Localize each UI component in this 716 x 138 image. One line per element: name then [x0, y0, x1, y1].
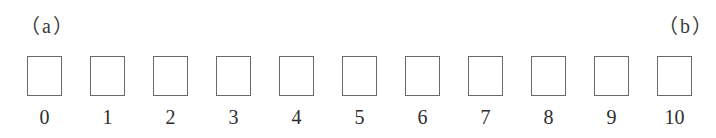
empty-cell [531, 56, 566, 96]
empty-cell [279, 56, 314, 96]
empty-cell [405, 56, 440, 96]
cell-index-label: 5 [335, 106, 385, 129]
cell-index-label: 3 [209, 106, 259, 129]
label-a: （a） [20, 10, 75, 39]
empty-cell [27, 56, 62, 96]
cell-index-label: 8 [524, 106, 574, 129]
empty-cell [216, 56, 251, 96]
empty-cell [342, 56, 377, 96]
empty-cell [657, 56, 692, 96]
empty-cell [90, 56, 125, 96]
cell-index-label: 6 [398, 106, 448, 129]
cell-index-label: 0 [20, 106, 70, 129]
cell-index-label: 2 [146, 106, 196, 129]
cell-index-label: 10 [650, 106, 700, 129]
empty-cell [468, 56, 503, 96]
cell-index-label: 4 [272, 106, 322, 129]
label-b: （b） [658, 10, 714, 39]
empty-cell [594, 56, 629, 96]
empty-cell [153, 56, 188, 96]
cell-index-label: 1 [83, 106, 133, 129]
cell-index-label: 7 [461, 106, 511, 129]
cell-index-label: 9 [587, 106, 637, 129]
